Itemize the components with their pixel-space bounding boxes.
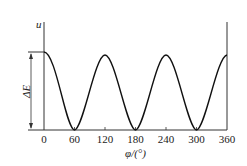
x-axis-label: φ/(°) (125, 147, 146, 160)
arrow-down-icon (29, 123, 33, 129)
potential-curve (44, 52, 227, 130)
x-tick-labels: 0 60 120 180 240 300 360 (41, 133, 236, 145)
svg-text:60: 60 (69, 133, 81, 145)
arrow-up-icon (29, 53, 33, 59)
chart: u ΔE 0 60 120 180 240 300 360 φ/(°) (0, 0, 247, 166)
svg-text:120: 120 (97, 133, 114, 145)
svg-text:0: 0 (41, 133, 47, 145)
svg-text:300: 300 (188, 133, 205, 145)
svg-text:360: 360 (219, 133, 236, 145)
svg-text:180: 180 (127, 133, 144, 145)
delta-label: ΔE (20, 85, 32, 99)
y-axis-label: u (36, 18, 42, 30)
svg-text:240: 240 (158, 133, 175, 145)
